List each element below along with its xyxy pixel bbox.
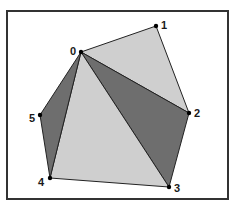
vertex-label-5: 5 bbox=[29, 112, 35, 124]
vertex-label-2: 2 bbox=[194, 107, 200, 119]
vertex-label-3: 3 bbox=[174, 182, 180, 194]
vertex-label-4: 4 bbox=[38, 176, 45, 188]
vertex-dot-0 bbox=[79, 50, 83, 54]
vertex-label-1: 1 bbox=[161, 19, 167, 31]
vertex-dot-3 bbox=[167, 185, 171, 189]
vertex-dot-1 bbox=[154, 24, 158, 28]
vertex-dot-5 bbox=[38, 113, 42, 117]
vertex-dot-4 bbox=[48, 176, 52, 180]
triangulation-diagram: 012345 bbox=[0, 0, 234, 206]
vertex-dot-2 bbox=[187, 111, 191, 115]
vertex-label-0: 0 bbox=[70, 45, 76, 57]
